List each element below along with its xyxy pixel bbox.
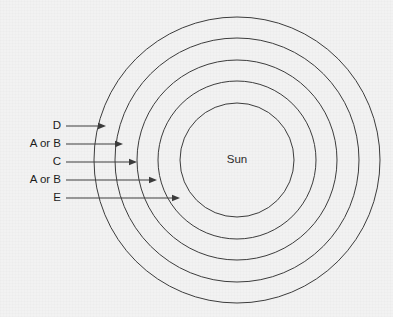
- callout-c-label: C: [53, 155, 61, 167]
- callout-e: E: [53, 191, 180, 203]
- callout-a-or-b-inner-label: A or B: [30, 173, 62, 185]
- callout-c-arrowhead-icon: [129, 159, 137, 165]
- callout-a-or-b-outer-arrowhead-icon: [115, 141, 123, 147]
- callout-d-arrowhead-icon: [98, 123, 106, 129]
- callout-c: C: [53, 155, 137, 167]
- callout-a-or-b-outer: A or B: [30, 137, 123, 149]
- callouts-group: D A or B C A or B E: [30, 119, 180, 203]
- callout-d-label: D: [53, 119, 61, 131]
- solar-system-diagram: Sun D A or B C A or B: [0, 0, 393, 317]
- callout-a-or-b-outer-label: A or B: [30, 137, 62, 149]
- callout-a-or-b-inner-arrowhead-icon: [149, 177, 157, 183]
- callout-d: D: [53, 119, 106, 131]
- sun-center-label: Sun: [227, 153, 247, 165]
- callout-e-arrowhead-icon: [172, 195, 180, 201]
- callout-e-label: E: [53, 191, 61, 203]
- diagram-canvas: Sun D A or B C A or B: [0, 0, 393, 317]
